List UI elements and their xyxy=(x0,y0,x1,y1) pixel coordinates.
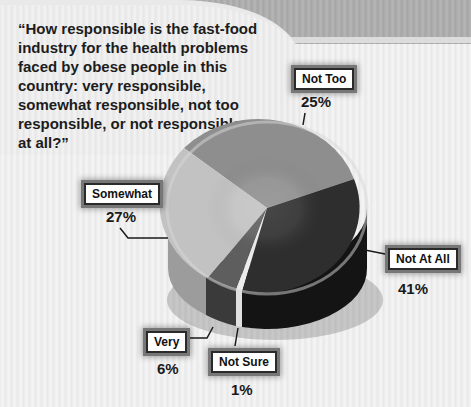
label-not-too: Not Too xyxy=(294,68,354,90)
pct-not-sure: 1% xyxy=(231,381,253,398)
pct-very: 6% xyxy=(157,360,179,377)
label-very: Very xyxy=(146,331,187,353)
pct-not-too: 25% xyxy=(301,93,331,110)
label-not-sure-text: Not Sure xyxy=(219,355,269,369)
label-somewhat: Somewhat xyxy=(84,183,160,205)
pct-not-at-all: 41% xyxy=(398,280,428,297)
label-not-at-all: Not At All xyxy=(388,248,458,270)
label-not-sure: Not Sure xyxy=(211,351,277,373)
label-somewhat-text: Somewhat xyxy=(92,187,152,201)
label-not-at-all-text: Not At All xyxy=(396,252,450,266)
pct-somewhat: 27% xyxy=(106,208,136,225)
pie-chart xyxy=(0,0,471,407)
label-very-text: Very xyxy=(154,335,179,349)
label-not-too-text: Not Too xyxy=(302,72,346,86)
